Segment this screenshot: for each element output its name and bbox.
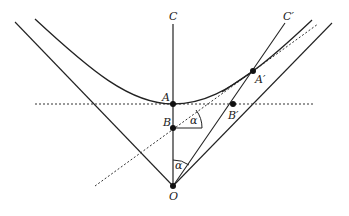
label-B-prime: B′ — [227, 109, 239, 122]
point-A — [170, 101, 176, 107]
left-asymptote — [15, 22, 173, 186]
label-A-prime: A′ — [254, 73, 266, 86]
tangent-at-A-prime — [222, 71, 253, 92]
hyperbola-diagram: C C′ A A′ B B′ O α α — [0, 0, 349, 216]
label-alpha-B: α — [190, 114, 198, 127]
label-C: C — [169, 10, 178, 23]
point-B-prime — [230, 101, 236, 107]
point-O — [170, 183, 176, 189]
label-B: B — [162, 116, 171, 129]
dotted-line-through-B — [95, 24, 318, 186]
label-C-prime: C′ — [283, 10, 294, 23]
diagram-canvas: C C′ A A′ B B′ O α α — [0, 0, 349, 216]
label-A: A — [161, 91, 170, 104]
label-O: O — [169, 190, 178, 203]
label-alpha-O: α — [175, 159, 183, 172]
